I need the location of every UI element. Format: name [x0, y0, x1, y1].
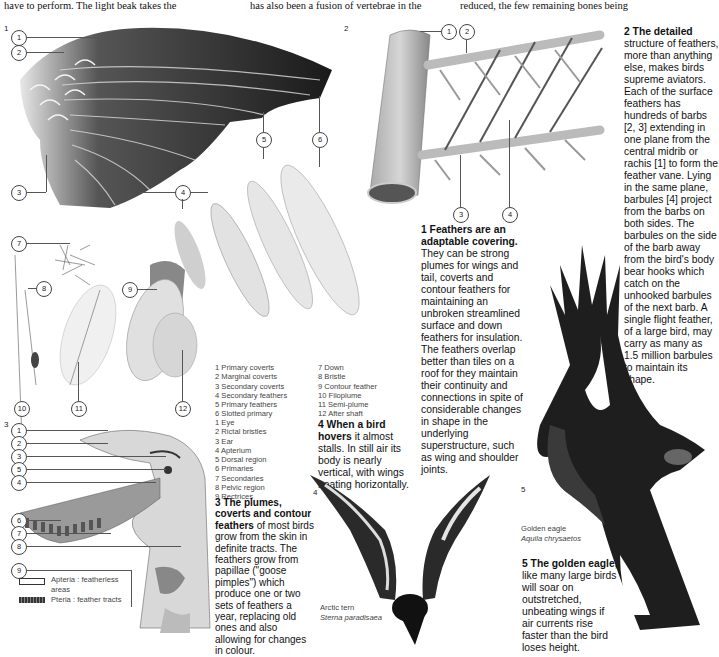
species-latin-name: Aquila chrysaetos	[521, 534, 581, 543]
legend-item: 6 Primaries	[215, 464, 267, 473]
callout-2-2: 2	[459, 24, 475, 40]
callout-1-5: 5	[256, 132, 272, 148]
figure-3-key: Apteria : featherless areas Pteria : fea…	[19, 575, 129, 605]
figure-5-species: Golden eagle Aquila chrysaetos	[521, 524, 581, 543]
legend-item: 2 Marginal coverts	[215, 372, 287, 381]
key-item-apteria: Apteria : featherless areas	[19, 575, 129, 594]
feather-tracts-swatch	[19, 597, 45, 603]
callout-1-2: 2	[11, 45, 27, 61]
figure-5-number: 5	[521, 485, 525, 494]
legend-item: 10 Filoplume	[318, 391, 377, 400]
legend-item: 9 Contour feather	[318, 382, 377, 391]
legend-item: 3 Secondary coverts	[215, 382, 287, 391]
figure-1-legend-left: 1 Primary coverts 2 Marginal coverts 3 S…	[215, 363, 287, 419]
legend-item: 12 After shaft	[318, 409, 377, 418]
feather-structure-illustration	[340, 20, 600, 220]
legend-item: 1 Primary coverts	[215, 363, 287, 372]
legend-item: 7 Secondaries	[215, 474, 267, 483]
key-item-pteria: Pteria : feather tracts	[19, 595, 129, 605]
callout-1-1: 1	[11, 30, 27, 46]
caption-title: 1 Feathers are an adaptable covering.	[421, 224, 518, 247]
running-text-col1: have to perform. The light beak takes th…	[4, 0, 176, 11]
callout-3-8: 8	[11, 539, 27, 555]
legend-item: 5 Dorsal region	[215, 455, 267, 464]
species-common-name: Golden eagle	[521, 524, 581, 534]
callout-1-11: 11	[71, 401, 87, 417]
caption-body: They can be strong plumes for wings and …	[421, 248, 523, 475]
legend-item: 8 Bristle	[318, 372, 377, 381]
figure-4-species: Arctic tern Sterna paradisaea	[320, 603, 382, 622]
callout-1-4: 4	[175, 185, 191, 201]
callout-1-6: 6	[312, 132, 328, 148]
species-latin-name: Sterna paradisaea	[320, 613, 382, 622]
legend-item: 1 Eye	[215, 418, 267, 427]
legend-item: 2 Rictal bristles	[215, 427, 267, 436]
featherless-swatch	[19, 578, 45, 585]
running-text-col3: reduced, the few remaining bones being	[460, 0, 628, 11]
species-common-name: Arctic tern	[320, 603, 382, 613]
legend-item: 7 Down	[318, 363, 377, 372]
callout-1-7: 7	[11, 236, 27, 252]
callout-2-1: 1	[441, 24, 457, 40]
caption-title: 2 The detailed	[624, 26, 693, 37]
figure-5-caption: 5 The golden eagle, like many large bird…	[522, 558, 618, 654]
key-label: Apteria : featherless areas	[51, 575, 121, 594]
callout-2-3: 3	[453, 207, 469, 223]
legend-item: 8 Pelvic region	[215, 483, 267, 492]
running-text-col2: has also been a fusion of vertebrae in t…	[250, 0, 421, 11]
feather-types-illustration	[0, 230, 210, 390]
legend-item: 11 Semi-plume	[318, 400, 377, 409]
legend-item: 5 Primary feathers	[215, 400, 287, 409]
callout-2-4: 4	[502, 207, 518, 223]
legend-item: 4 Apterium	[215, 446, 267, 455]
callout-1-8: 8	[36, 281, 52, 297]
figure-3-legend: 1 Eye 2 Rictal bristles 3 Ear 4 Apterium…	[215, 418, 267, 502]
callout-1-10: 10	[14, 401, 30, 417]
figure-1-legend-right: 7 Down 8 Bristle 9 Contour feather 10 Fi…	[318, 363, 377, 419]
figure-3-caption: 3 The plumes, coverts and contour feathe…	[215, 497, 315, 657]
legend-item: 3 Ear	[215, 437, 267, 446]
arctic-tern-illustration	[305, 470, 505, 620]
legend-item: 4 Secondary feathers	[215, 391, 287, 400]
caption-title: 5 The golden eagle,	[522, 558, 618, 569]
key-label: Pteria : feather tracts	[51, 595, 121, 605]
callout-1-3: 3	[11, 185, 27, 201]
callout-1-9: 9	[122, 282, 138, 298]
caption-body: of most birds grow from the skin in defi…	[215, 520, 314, 656]
callout-3-4: 4	[11, 475, 27, 491]
callout-1-12: 12	[175, 401, 191, 417]
caption-body: like many large birds will soar on outst…	[522, 570, 616, 653]
